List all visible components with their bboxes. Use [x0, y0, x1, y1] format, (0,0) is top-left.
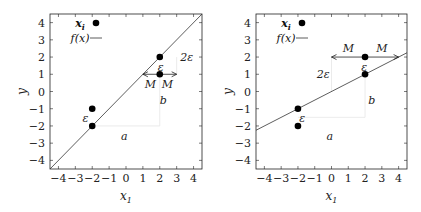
- annotation-two-eps: 2ε: [316, 68, 330, 81]
- y-tick-label: 4: [38, 17, 45, 30]
- y-tick-label: −2: [29, 120, 45, 133]
- y-tick-label: 3: [38, 34, 45, 47]
- annotation-a: a: [121, 130, 128, 143]
- x-tick-label: 1: [345, 172, 352, 185]
- annotation-eps: ε: [83, 112, 89, 125]
- y-tick-label: 0: [38, 86, 45, 99]
- annotation-m: M: [375, 42, 388, 55]
- annotation-two-eps: 2ε: [179, 51, 193, 64]
- x-tick-label: −1: [101, 172, 117, 185]
- x-tick-label: −3: [67, 172, 83, 185]
- x-tick-label: 3: [378, 172, 385, 185]
- x-tick-label: 0: [123, 172, 130, 185]
- y-tick-label: −4: [29, 154, 45, 167]
- y-tick-label: 1: [244, 68, 251, 81]
- x-tick-label: −4: [256, 172, 272, 185]
- x-tick-label: 1: [139, 172, 146, 185]
- x-tick-label: 2: [156, 172, 163, 185]
- y-tick-label: 1: [38, 68, 45, 81]
- data-point: [156, 54, 163, 61]
- y-axis-label: y: [15, 88, 29, 96]
- annotation-b: b: [368, 94, 375, 107]
- annotation-eps: ε: [158, 61, 164, 74]
- x-tick-label: −2: [290, 172, 306, 185]
- y-tick-label: −4: [235, 154, 251, 167]
- x-tick-label: −1: [307, 172, 323, 185]
- legend-label-line: f(x): [70, 32, 90, 45]
- x-tick-label: 3: [173, 172, 180, 185]
- x-tick-label: 4: [190, 172, 197, 185]
- plot-right: −4−3−2−101234−4−3−2−101234x1yεε2εMMabxif…: [221, 14, 407, 205]
- data-point: [89, 123, 96, 130]
- x-axis-label: x1: [120, 189, 132, 205]
- annotation-m: M: [161, 78, 174, 91]
- y-tick-label: −1: [235, 103, 251, 116]
- y-tick-label: 2: [38, 51, 45, 64]
- x-tick-label: 0: [328, 172, 335, 185]
- y-tick-label: 4: [244, 17, 251, 30]
- x-tick-label: −2: [84, 172, 100, 185]
- y-tick-label: −3: [235, 137, 251, 150]
- data-point: [89, 105, 96, 112]
- x-tick-label: −3: [273, 172, 289, 185]
- figure: −4−3−2−101234−4−3−2−101234x1yεε2εMMabxif…: [0, 0, 421, 212]
- y-tick-label: 2: [244, 51, 251, 64]
- data-point: [295, 105, 302, 112]
- data-point: [362, 54, 369, 61]
- y-tick-label: 3: [244, 34, 251, 47]
- legend-label-points: xi: [74, 17, 85, 32]
- x-tick-label: 2: [362, 172, 369, 185]
- annotation-b: b: [160, 94, 167, 107]
- y-axis-label: y: [221, 88, 235, 96]
- legend-point-marker: [93, 20, 100, 27]
- annotation-m: M: [144, 78, 157, 91]
- x-tick-label: 4: [395, 172, 402, 185]
- annotation-a: a: [327, 130, 334, 143]
- legend: xif(x): [70, 17, 102, 45]
- x-tick-label: −4: [50, 172, 66, 185]
- y-tick-label: −2: [235, 120, 251, 133]
- annotation-eps: ε: [361, 61, 367, 74]
- x-axis-label: x1: [326, 189, 338, 205]
- y-tick-label: −1: [29, 103, 45, 116]
- legend-label-points: xi: [280, 17, 291, 32]
- y-tick-label: −3: [29, 137, 45, 150]
- plot-left: −4−3−2−101234−4−3−2−101234x1yεε2εMMabxif…: [15, 14, 202, 205]
- legend-label-line: f(x): [276, 32, 296, 45]
- annotation-eps: ε: [299, 112, 305, 125]
- legend: xif(x): [276, 17, 308, 45]
- y-tick-label: 0: [244, 86, 251, 99]
- legend-point-marker: [299, 20, 306, 27]
- annotation-m: M: [342, 42, 355, 55]
